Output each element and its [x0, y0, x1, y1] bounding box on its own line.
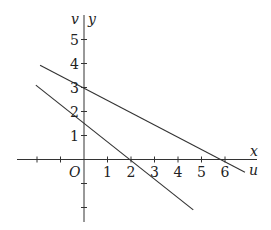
x-axis-label: x [250, 143, 258, 159]
y-tick-label: 2 [70, 104, 79, 120]
axes [17, 15, 257, 222]
x-tick-label: 6 [221, 164, 230, 180]
data-lines [36, 65, 245, 210]
origin-label: O [69, 164, 81, 180]
x-tick-label: 5 [197, 164, 206, 180]
x-tick-label: 3 [150, 164, 159, 180]
coordinate-plot: 12345612345Oxuvy [0, 0, 271, 230]
x-tick-label: 4 [174, 164, 183, 180]
v-axis-label: v [71, 11, 79, 27]
u-axis-label: u [249, 162, 258, 178]
y-tick-label: 4 [70, 56, 79, 72]
x-tick-label: 2 [127, 164, 136, 180]
plot-svg: 12345612345Oxuvy [0, 0, 271, 230]
y-tick-label: 1 [70, 128, 79, 144]
y-tick-label: 3 [70, 80, 79, 96]
x-tick-label: 1 [103, 164, 112, 180]
y-axis-label: y [87, 11, 97, 27]
y-tick-label: 5 [70, 32, 79, 48]
